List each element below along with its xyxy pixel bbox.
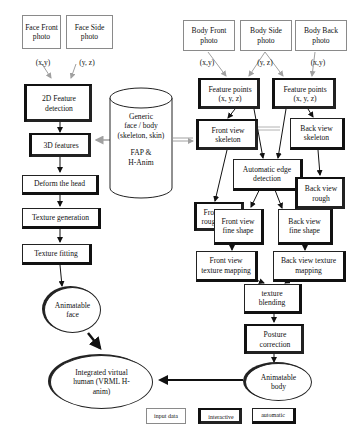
- face-side-photo: Face Side photo: [66, 15, 113, 49]
- feature-points-back: Feature points (x, y, z): [272, 78, 336, 109]
- legend-input-data: input data: [146, 408, 186, 424]
- deform-head: Deform the head: [22, 175, 99, 195]
- features-3d: 3D features: [29, 133, 91, 157]
- front-view-texture-mapping: Front view texture mapping: [196, 251, 258, 282]
- legend-interactive: interactive: [198, 408, 242, 424]
- front-view-fine-shape: Front view fine shape: [214, 209, 264, 245]
- back-view-texture-mapping: Back view texture mapping: [273, 251, 346, 282]
- texture-blending: texture blending: [244, 284, 302, 314]
- body-back-photo: Body Back photo: [295, 20, 347, 51]
- back-view-fine-shape: Back view fine shape: [278, 209, 333, 245]
- generic-db-label: Generic face / body (skeleton, skin) FAP…: [110, 112, 172, 167]
- body-side-photo: Body Side photo: [240, 20, 292, 51]
- body-front-photo: Body Front photo: [183, 20, 235, 51]
- texture-generation: Texture generation: [22, 208, 101, 229]
- legend-automatic: automatic: [252, 408, 296, 424]
- automatic-edge-detection: Automatic edge detection: [233, 159, 303, 191]
- face-front-photo: Face Front photo: [22, 15, 61, 49]
- animatable-face: Animatable face: [44, 287, 101, 333]
- back-view-skeleton: Back view skeleton: [290, 118, 345, 150]
- posture-correction: Posture correction: [244, 324, 304, 354]
- back-view-rough: Back view rough: [295, 177, 345, 209]
- integrated-virtual-human: Integrated virtual human (VRML H-anim): [50, 355, 153, 409]
- body-side-coords: (y, z): [250, 58, 280, 67]
- face-front-coords: (x,y): [28, 58, 58, 67]
- animatable-body: Animatable body: [245, 363, 312, 401]
- feature-points-front: Feature points (x, y, z): [198, 78, 260, 109]
- body-front-coords: (x,y): [192, 58, 222, 67]
- feature-detection-2d: 2D Feature detection: [24, 84, 92, 122]
- face-side-coords: (y, z): [72, 58, 102, 67]
- texture-fitting: Texture fitting: [22, 244, 92, 265]
- front-view-skeleton: Front view skeleton: [196, 119, 258, 150]
- body-back-coords: (x,y): [303, 58, 333, 67]
